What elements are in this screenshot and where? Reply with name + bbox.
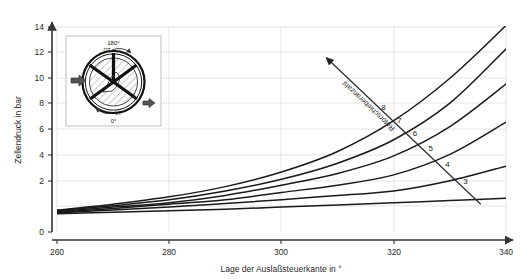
curve-label-5: 5 [429,144,434,153]
curve-label-6: 6 [413,129,418,138]
inset-rotary-engine-diagram: 180° OT UT 0° [66,36,161,126]
x-tick-label: 300 [274,247,288,257]
x-axis-ticklabels: 260 280 300 320 340 [50,247,513,257]
y-tick-label: 14 [35,22,45,32]
curve-labels: 876543 [381,103,468,187]
y-tick-label: 8 [39,98,44,108]
inset-top-angle-label: 180° [107,40,120,46]
inset-ot-label: OT [104,47,111,53]
curve-label-4: 4 [445,160,450,169]
x-tick-label: 280 [162,247,176,257]
inset-ut-label: UT [115,110,122,116]
x-tick-label: 340 [499,247,513,257]
chart-figure: 14 12 10 8 6 4 2 0 Zellendruck in bar 26… [0,0,521,279]
x-axis-title: Lage der Auslaßsteuerkante in ° [220,264,341,274]
y-axis [48,22,52,232]
y-tick-label: 10 [35,73,45,83]
y-axis-ticklabels: 14 12 10 8 6 4 2 0 [35,22,45,237]
rotorschieberanzahl-annotation: Rotorschieberanzahl [326,58,480,204]
inset-bottom-angle-label: 0° [111,118,117,124]
curve-5 [57,122,506,212]
annotation-label: Rotorschieberanzahl [340,79,396,133]
x-tick-label: 320 [387,247,401,257]
y-axis-title: Zellendruck in bar [13,96,23,164]
curve-label-3: 3 [463,177,468,186]
curve-label-7: 7 [397,116,402,125]
y-tick-label: 4 [39,150,44,160]
x-axis [52,240,513,244]
y-tick-label: 2 [39,176,44,186]
x-tick-label: 260 [50,247,64,257]
y-tick-label: 6 [39,124,44,134]
chart-svg: 14 12 10 8 6 4 2 0 Zellendruck in bar 26… [0,0,521,279]
y-tick-label: 12 [35,47,45,57]
y-tick-label: 0 [39,227,44,237]
